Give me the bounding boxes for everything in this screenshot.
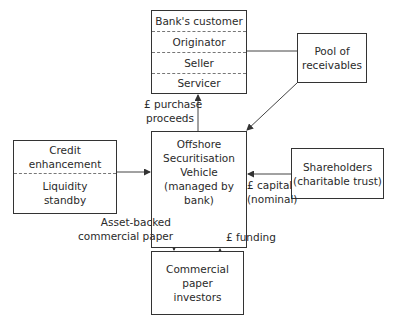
credit-label-1: Credit [49, 143, 81, 157]
seller-label: Seller [152, 52, 246, 73]
pool-of-receivables-box: Pool of receivables [297, 33, 367, 83]
cp-investors-box: Commercial paper investors [151, 251, 244, 315]
investors-label-2: paper [182, 276, 213, 290]
abcp-line-1: Asset-backed [78, 215, 171, 229]
purchase-line-2: proceeds [144, 111, 194, 125]
purchase-proceeds-label: £ purchase proceeds [144, 97, 194, 125]
shareholders-label-1: Shareholders [303, 160, 372, 174]
purchase-line-1: £ purchase [144, 97, 194, 111]
credit-enhancement-box: Credit enhancement Liquidity standby [13, 140, 117, 214]
capital-line-1: £ capital [247, 178, 289, 192]
liquidity-label-1: Liquidity [43, 179, 88, 193]
abcp-label: Asset-backed commercial paper [78, 215, 171, 243]
shareholders-box: Shareholders (charitable trust) [291, 148, 384, 199]
bank-customer-box: Bank's customer Originator Seller Servic… [151, 10, 247, 94]
funding-label: £ funding [226, 230, 276, 244]
pool-label-2: receivables [302, 58, 362, 72]
capital-line-2: (nominal) [247, 192, 289, 206]
capital-label: £ capital (nominal) [247, 178, 289, 206]
investors-label-1: Commercial [166, 262, 229, 276]
originator-label: Originator [152, 31, 246, 52]
shareholders-label-2: (charitable trust) [293, 174, 382, 188]
abcp-line-2: commercial paper [78, 229, 171, 243]
vehicle-label-4: (managed by bank) [152, 179, 246, 207]
vehicle-label-3: Vehicle [180, 165, 218, 179]
vehicle-label-2: Securitisation [163, 151, 235, 165]
credit-label-2: enhancement [29, 157, 102, 171]
servicer-label: Servicer [152, 73, 246, 93]
vehicle-label-1: Offshore [177, 137, 222, 151]
investors-label-3: investors [173, 290, 221, 304]
liquidity-label-2: standby [44, 193, 86, 207]
pool-label-1: Pool of [314, 44, 349, 58]
bank-customer-label: Bank's customer [152, 11, 246, 31]
